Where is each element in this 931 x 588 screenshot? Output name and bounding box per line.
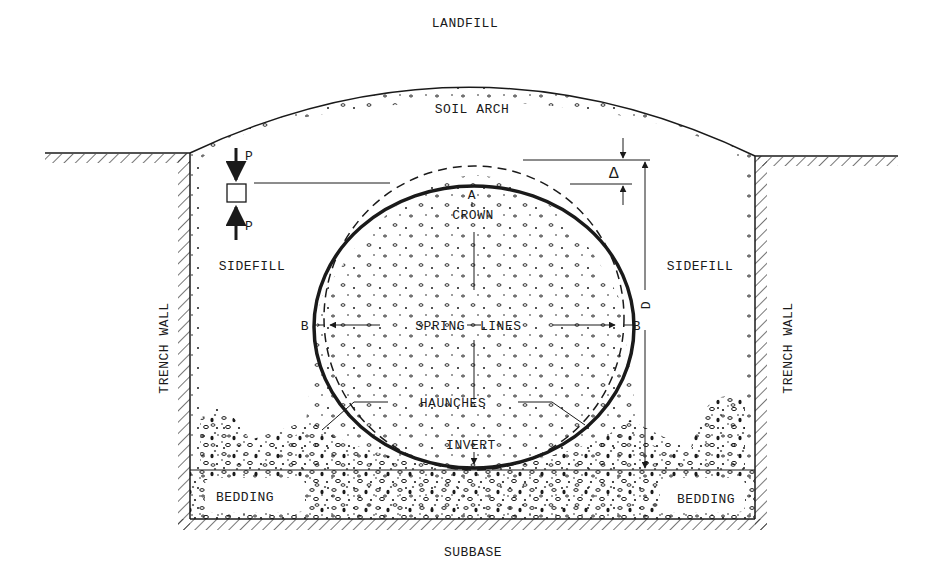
label-subbase: SUBBASE [444, 545, 502, 560]
label-spring-point-b-right: B [633, 319, 641, 334]
label-diameter-d: D [639, 301, 654, 309]
label-crown-point-a: A [468, 188, 476, 203]
label-crown: CROWN [452, 208, 494, 223]
label-trench-wall-right: TRENCH WALL [781, 302, 796, 393]
label-soil-arch: SOIL ARCH [435, 102, 510, 117]
label-bedding-left: BEDDING [216, 490, 274, 505]
label-sidefill-left: SIDEFILL [219, 259, 285, 274]
label-haunches: HAUNCHES [420, 396, 486, 411]
label-invert: INVERT [446, 438, 496, 453]
ground-surface-left [45, 153, 190, 163]
ground-surface-right [755, 156, 898, 166]
label-sidefill-right: SIDEFILL [667, 259, 733, 274]
trench-wall-left-hatch [178, 153, 190, 530]
label-deflection-delta: Δ [609, 165, 619, 183]
label-bedding-right: BEDDING [677, 492, 735, 507]
trench-wall-right-hatch [755, 156, 767, 530]
pipe-trench-diagram: LANDFILL SOIL ARCH SIDEFILL SIDEFILL TRE… [0, 0, 931, 588]
label-load-p-bottom: P [245, 219, 253, 234]
trench-bottom-hatch [178, 519, 767, 530]
label-spring: SPRING [415, 319, 465, 334]
label-lines: LINES [480, 319, 522, 334]
label-landfill: LANDFILL [432, 16, 498, 31]
label-spring-point-b-left: B [301, 319, 309, 334]
label-trench-wall-left: TRENCH WALL [157, 302, 172, 393]
label-load-p-top: P [245, 149, 253, 164]
